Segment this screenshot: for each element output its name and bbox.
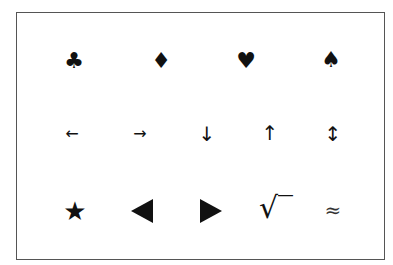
square-root-icon: √‾	[259, 193, 293, 223]
right-arrow-icon: →	[133, 126, 146, 142]
up-down-arrow-icon: ↕	[325, 124, 342, 144]
down-arrow-icon: ↓	[199, 124, 216, 144]
approximately-equal-icon: ≈	[325, 200, 342, 220]
heart-icon: ♥	[236, 50, 256, 72]
right-triangle-icon	[200, 199, 222, 223]
left-triangle-icon	[131, 199, 153, 223]
diamond-icon: ♦	[151, 50, 171, 72]
up-arrow-icon: ↑	[262, 123, 279, 143]
spade-icon: ♠	[321, 49, 341, 71]
club-icon: ♣	[64, 50, 84, 72]
left-arrow-icon: ←	[65, 126, 78, 142]
star-icon: ★	[63, 198, 86, 224]
